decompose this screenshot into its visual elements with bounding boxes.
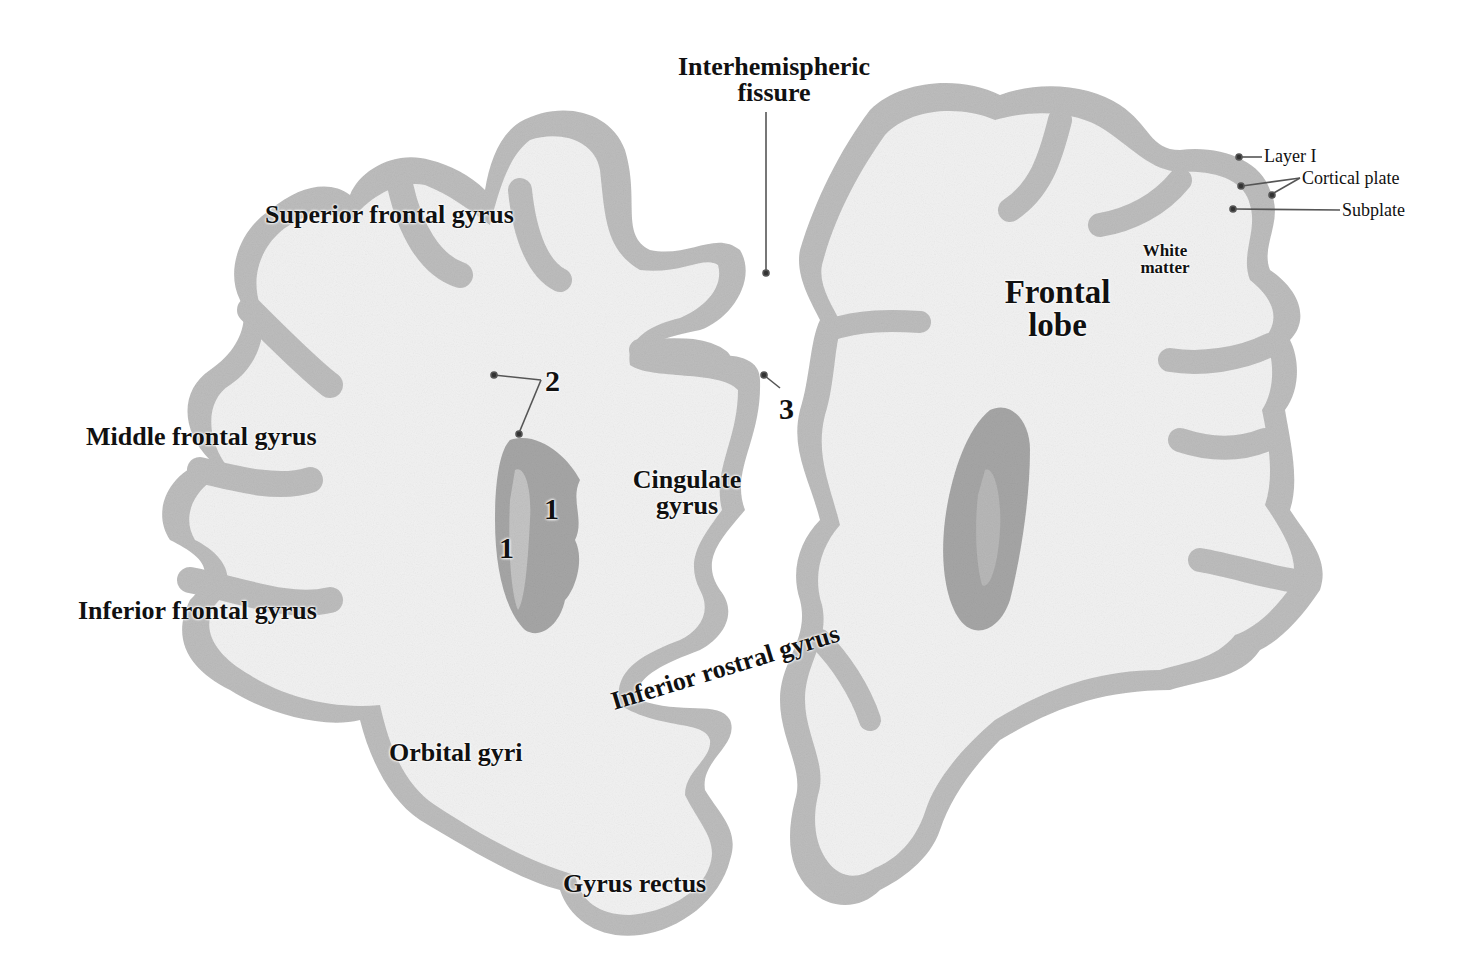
marker-1b: 1 [499, 531, 514, 565]
right-sulcus [1180, 440, 1265, 448]
label-gyrus-rectus: Gyrus rectus [563, 871, 706, 897]
marker-3: 3 [779, 392, 794, 426]
marker-2: 2 [545, 364, 560, 398]
label-cortical-plate: Cortical plate [1302, 169, 1399, 187]
left-hemisphere [162, 111, 760, 936]
label-layer-i: Layer I [1264, 147, 1316, 165]
label-middle-frontal-gyrus: Middle frontal gyrus [86, 424, 317, 450]
label-line: gyrus [612, 493, 762, 519]
right-white-matter [805, 111, 1294, 876]
label-orbital-gyri: Orbital gyri [389, 740, 523, 766]
label-white-matter: White matter [1125, 242, 1205, 276]
label-line: Cingulate [612, 467, 762, 493]
left-sulcus [640, 349, 720, 360]
label-subplate: Subplate [1342, 201, 1405, 219]
label-superior-frontal-gyrus: Superior frontal gyrus [265, 202, 514, 228]
label-frontal-lobe: Frontal lobe [985, 276, 1130, 342]
right-hemisphere [780, 83, 1323, 905]
label-line: Frontal [985, 276, 1130, 309]
label-interhemispheric-fissure: Interhemispheric fissure [654, 54, 894, 106]
label-line: lobe [985, 309, 1130, 342]
label-line: White [1125, 242, 1205, 259]
label-line: fissure [654, 80, 894, 106]
label-cingulate-gyrus: Cingulate gyrus [612, 467, 762, 519]
left-sulcus [200, 470, 310, 484]
right-sulcus [830, 321, 920, 330]
label-line: matter [1125, 259, 1205, 276]
marker-1a: 1 [544, 492, 559, 526]
label-line: Interhemispheric [654, 54, 894, 80]
label-inferior-frontal-gyrus: Inferior frontal gyrus [78, 598, 317, 624]
